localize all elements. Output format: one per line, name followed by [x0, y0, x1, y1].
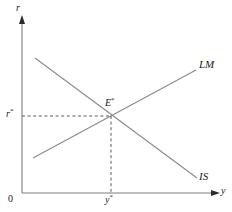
r-star-tick-label: r* — [6, 109, 13, 119]
lm-curve — [33, 70, 196, 158]
y-star-asterisk: * — [109, 193, 112, 200]
y-star-tick-label: y* — [105, 195, 113, 205]
x-axis-label: y — [221, 186, 225, 196]
islm-plot-svg — [0, 0, 232, 212]
is-curve-label: IS — [199, 171, 208, 182]
y-axis-label: r — [16, 3, 20, 13]
x-axis-arrowhead — [211, 190, 220, 196]
y-axis-arrowhead — [19, 15, 25, 24]
r-star-asterisk: * — [10, 107, 13, 114]
islm-figure: r y 0 r* y* E* LM IS — [0, 0, 232, 212]
origin-label: 0 — [8, 194, 13, 204]
equilibrium-point-label: E* — [105, 98, 115, 108]
equilibrium-asterisk: * — [111, 96, 114, 103]
is-curve — [35, 58, 197, 178]
lm-curve-label: LM — [199, 59, 214, 70]
